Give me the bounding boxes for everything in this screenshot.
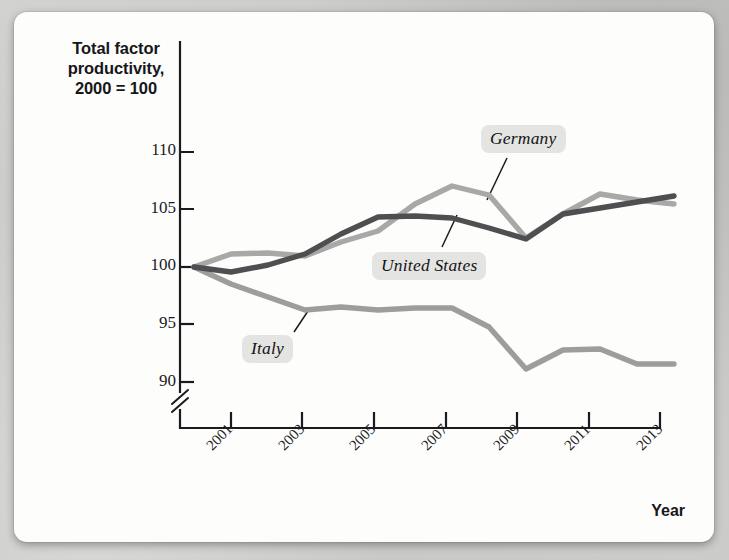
series-line-italy [194,267,674,369]
y-axis-break-icon [172,390,188,412]
x-axis-ticks [231,412,660,428]
axis-lines [180,42,660,428]
series-line-united-states [194,196,674,272]
series-line-germany [194,186,674,267]
chart-card: Total factor productivity, 2000 = 100 11… [14,12,714,542]
chart-plot-area [14,12,714,542]
